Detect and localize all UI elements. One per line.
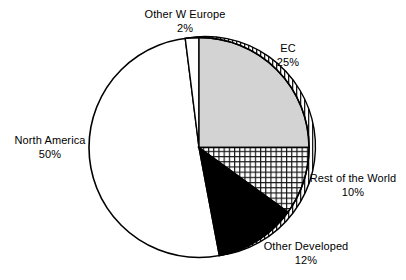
pie-label-other-developed-name: Other Developed [250,240,362,254]
pie-label-other-w-europe: Other W Europe 2% [130,8,240,35]
pie-label-other-developed: Other Developed 12% [250,240,362,267]
pie-label-other-w-europe-name: Other W Europe [130,8,240,22]
pie-label-north-america-value: 50% [2,148,98,162]
pie-slice-other-w-europe[interactable] [185,37,199,147]
pie-label-rest-of-the-world: Rest of the World 10% [300,172,406,199]
pie-label-ec-name: EC [258,42,318,56]
pie-label-rest-of-the-world-value: 10% [300,186,406,200]
pie-label-north-america: North America 50% [2,134,98,161]
pie-chart-screen: Other W Europe 2% EC 25% Rest of the Wor… [0,0,406,280]
pie-label-ec: EC 25% [258,42,318,69]
pie-label-other-developed-value: 12% [250,254,362,268]
pie-label-north-america-name: North America [2,134,98,148]
pie-label-rest-of-the-world-name: Rest of the World [300,172,406,186]
pie-label-other-w-europe-value: 2% [130,22,240,36]
pie-label-ec-value: 25% [258,56,318,70]
